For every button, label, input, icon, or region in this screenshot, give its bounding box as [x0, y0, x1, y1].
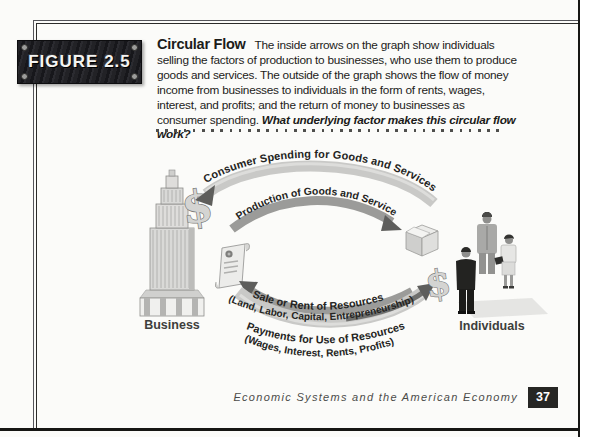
textbook-page: FIGURE 2.5 Circular Flow The inside arro…: [0, 0, 593, 437]
page-number-badge: 37: [528, 387, 558, 408]
business-label: Business: [140, 318, 204, 332]
goods-package-icon: [406, 225, 438, 256]
individuals-label: Individuals: [450, 319, 534, 333]
running-title: Economic Systems and the American Econom…: [200, 391, 518, 403]
circular-flow-diagram: $ Consumer Spending for Goods and Servic…: [0, 0, 593, 437]
dollar-sign-icon: $: [423, 260, 454, 305]
individuals-icon: [456, 212, 548, 318]
